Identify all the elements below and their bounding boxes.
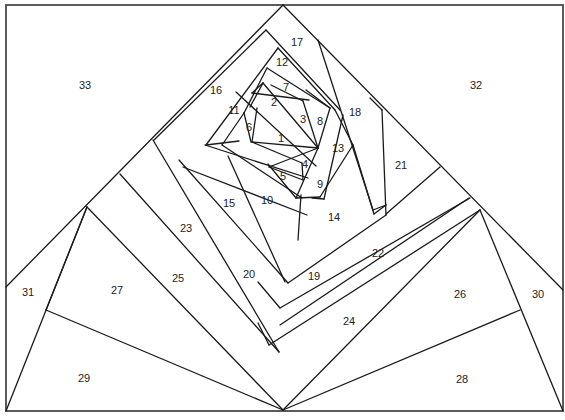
seam-line (250, 83, 263, 107)
piece-label-29: 29 (78, 372, 90, 384)
seam-line (153, 140, 279, 352)
seam-line (306, 90, 330, 108)
piece-label-2: 2 (271, 96, 277, 108)
seam-line (258, 282, 280, 308)
seam-line (206, 48, 278, 145)
piece-label-22: 22 (372, 247, 384, 259)
piece-label-15: 15 (223, 197, 235, 209)
piece-label-5: 5 (280, 170, 286, 182)
piece-label-31: 31 (22, 286, 34, 298)
piece-label-1: 1 (278, 132, 284, 144)
seam-line (46, 310, 283, 410)
piece-label-21: 21 (395, 159, 407, 171)
piece-label-16: 16 (210, 84, 222, 96)
seam-line (283, 310, 520, 410)
seam-line (269, 210, 480, 345)
piece-label-14: 14 (328, 211, 340, 223)
seam-line (252, 142, 318, 148)
seam-line (222, 145, 302, 198)
seam-line (324, 115, 343, 199)
seam-line (280, 198, 469, 325)
seam-line (298, 195, 301, 240)
piece-label-18: 18 (349, 106, 361, 118)
piecing-pattern-diagram: 1234567891011121314151617181920212223242… (0, 0, 565, 420)
piece-label-28: 28 (456, 373, 468, 385)
piece-label-10: 10 (261, 194, 273, 206)
piece-label-32: 32 (470, 79, 482, 91)
piece-label-19: 19 (308, 270, 320, 282)
piece-label-23: 23 (180, 222, 192, 234)
seam-line (120, 174, 279, 352)
seam-line (283, 5, 563, 290)
piece-label-24: 24 (343, 315, 355, 327)
seam-line (252, 108, 257, 142)
seam-line (252, 142, 302, 163)
seam-line (386, 167, 440, 214)
seam-line (222, 113, 244, 145)
piece-label-11: 11 (228, 104, 239, 116)
piece-label-13: 13 (332, 142, 344, 154)
seam-line (252, 93, 309, 100)
piece-label-9: 9 (317, 178, 323, 190)
piece-label-4: 4 (302, 158, 308, 170)
piece-label-12: 12 (276, 56, 288, 68)
piece-label-3: 3 (300, 113, 306, 125)
piece-label-25: 25 (172, 272, 184, 284)
seam-line (244, 68, 267, 113)
seam-line (283, 210, 480, 410)
seam-line (382, 110, 386, 215)
piece-label-8: 8 (317, 115, 323, 127)
seam-line (6, 207, 87, 411)
piece-label-20: 20 (243, 268, 255, 280)
seam-line (312, 198, 324, 199)
piece-label-30: 30 (532, 288, 544, 300)
piece-label-26: 26 (454, 288, 466, 300)
seam-line (480, 210, 563, 411)
piece-label-17: 17 (291, 36, 303, 48)
seam-line (318, 40, 373, 210)
seam-line (6, 5, 283, 287)
piece-label-6: 6 (246, 121, 252, 133)
piece-label-33: 33 (79, 79, 91, 91)
piece-label-27: 27 (111, 284, 123, 296)
seam-line (205, 145, 308, 178)
piece-label-7: 7 (283, 81, 289, 93)
